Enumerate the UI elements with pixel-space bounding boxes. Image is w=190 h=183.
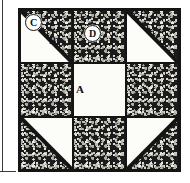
page-canvas: A B C D [0,0,190,183]
patch-middle-right [126,63,179,116]
patch-label-c: C [25,14,42,31]
left-margin-rule [2,0,3,172]
patch-label-b: B [49,35,56,46]
patch-top-right [126,10,179,63]
dark-print-fill [21,64,72,115]
patch-bottom-center [73,117,126,170]
bottom-margin-rule [0,171,16,172]
patch-bottom-right [126,117,179,170]
dark-print-fill [74,118,125,169]
patch-middle-left [20,63,73,116]
patch-label-a: A [76,84,84,95]
patch-bottom-left [20,117,73,170]
dark-print-fill [127,64,178,115]
patch-label-d: D [84,25,101,42]
